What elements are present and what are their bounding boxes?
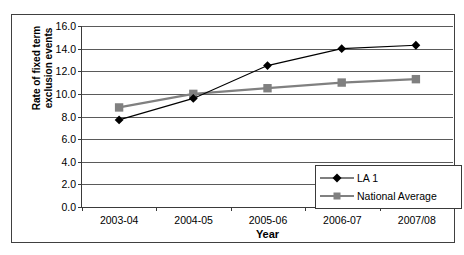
x-axis-tick [156,207,157,211]
y-axis-title-line-1: Rate of fixed term [31,26,43,110]
legend-item-la-1: LA 1 [320,169,461,187]
y-axis-tick-label: 10.0 [56,89,76,100]
data-point-diamond [412,41,421,50]
x-axis-title: Year [82,229,453,240]
chart-legend: LA 1 National Average [315,165,462,209]
x-axis-tick-label: 2003-04 [100,215,139,226]
legend-key-la-1 [320,171,354,185]
y-axis-title-line-2: exclusion events [43,28,55,109]
data-point-square [412,75,420,83]
y-axis-tick-label: 0.0 [61,202,76,213]
data-point-diamond [115,115,124,124]
x-axis-tick [231,207,232,211]
y-axis-tick-label: 8.0 [61,111,76,122]
data-point-diamond [337,44,346,53]
data-point-square [263,84,271,92]
diamond-icon [320,171,354,185]
x-axis-tick-label: 2004-05 [174,215,213,226]
y-axis-tick-label: 6.0 [61,134,76,145]
y-axis-tick-label: 16.0 [56,21,76,32]
y-axis-tick-label: 14.0 [56,43,76,54]
legend-item-national-average: National Average [320,187,461,205]
series-line-la-1 [119,45,416,120]
chart-frame: Rate of fixed term exclusion events 16.0… [11,14,455,243]
legend-label-la-1: LA 1 [357,173,378,184]
legend-key-national-average [320,189,354,203]
x-axis-tick-label: 2007/08 [398,215,436,226]
series-line-national-average [119,79,416,107]
square-icon [320,189,354,203]
x-axis-tick [305,207,306,211]
y-axis-tick-label: 4.0 [61,157,76,168]
y-axis-tick-label: 12.0 [56,66,76,77]
x-axis-tick-label: 2005-06 [249,215,288,226]
data-point-square [338,78,346,86]
data-point-diamond [263,61,272,70]
y-axis-tick-label: 2.0 [61,179,76,190]
x-axis-tick [82,207,83,211]
x-axis-tick-label: 2006-07 [323,215,362,226]
legend-label-national-average: National Average [357,191,437,202]
data-point-square [115,103,123,111]
